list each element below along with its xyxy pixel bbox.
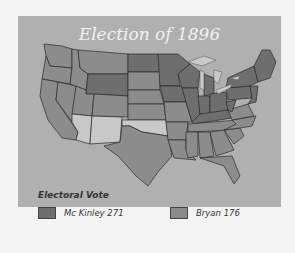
legend-item-bryan: Bryan 176	[170, 207, 240, 219]
lake-superior	[188, 56, 216, 66]
legend-swatch-bryan	[170, 207, 188, 219]
state-nebraska	[128, 90, 164, 104]
legend-swatch-mckinley	[38, 207, 56, 219]
state-colorado	[92, 94, 128, 117]
legend-item-mckinley: Mc Kinley 271	[38, 207, 124, 219]
legend-label-mckinley: Mc Kinley 271	[64, 208, 124, 218]
territory-new-mexico	[90, 116, 122, 144]
state-new-england	[254, 50, 276, 82]
state-wyoming	[86, 74, 128, 96]
state-florida	[200, 156, 240, 184]
state-arkansas	[166, 122, 188, 140]
lake-michigan	[200, 70, 204, 90]
us-map	[18, 16, 281, 207]
state-north-dakota	[128, 54, 160, 72]
state-mississippi	[186, 132, 198, 158]
state-montana	[78, 50, 128, 74]
state-indiana	[198, 96, 210, 114]
legend-label-bryan: Bryan 176	[196, 208, 240, 218]
state-south-dakota	[128, 72, 160, 90]
legend-title: Electoral Vote	[38, 190, 109, 200]
state-michigan	[204, 74, 214, 96]
map-panel: Election of 1896	[18, 16, 281, 207]
lake-huron	[214, 70, 222, 84]
state-kansas	[128, 104, 166, 120]
